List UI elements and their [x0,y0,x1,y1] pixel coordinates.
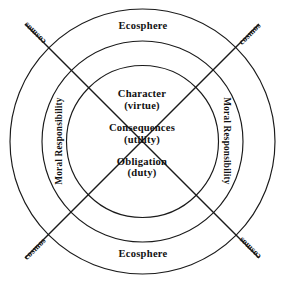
core-paren-virtue: (virtue) [63,100,221,113]
core-term-obligation: Obligation [63,156,221,168]
ecosphere-label-top: Ecosphere [0,20,286,31]
core-paren-utility: (utility) [63,134,221,147]
core-entry-character: Character (virtue) [63,88,221,113]
core-entry-obligation: Obligation (duty) [63,156,221,181]
core-term-character: Character [63,88,221,100]
core-paren-duty: (duty) [63,167,221,180]
ethics-rings-diagram: Ecosphere Ecosphere Moral Responsibility… [0,0,286,282]
core-ethics-list: Character (virtue) Consequences (utility… [63,88,221,180]
core-entry-consequences: Consequences (utility) [63,122,221,147]
moral-responsibility-label-right: Moral Responsibility [222,97,232,184]
core-term-consequences: Consequences [63,122,221,134]
